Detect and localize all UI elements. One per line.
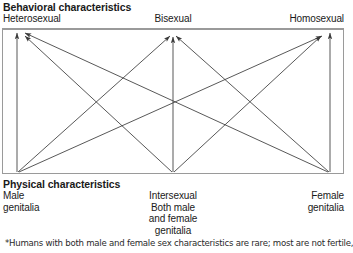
label-heterosexual: Heterosexual bbox=[3, 13, 61, 24]
column-male-genitalia: Male genitalia bbox=[3, 190, 39, 213]
column-intersexual: Intersexual Both male and female genital… bbox=[149, 190, 197, 236]
behavioral-characteristics-heading: Behavioral characteristics bbox=[3, 1, 131, 13]
footnote-text: *Humans with both male and female sex ch… bbox=[5, 238, 353, 248]
column-intersexual-line2: Both male bbox=[149, 202, 197, 214]
diagram-frame bbox=[2, 28, 344, 174]
column-male-line1: Male bbox=[3, 190, 39, 202]
column-intersexual-line1: Intersexual bbox=[149, 190, 197, 202]
label-homosexual: Homosexual bbox=[289, 13, 344, 24]
label-bisexual: Bisexual bbox=[155, 13, 192, 24]
column-female-line2: genitalia bbox=[308, 202, 344, 214]
column-intersexual-line3: and female bbox=[149, 213, 197, 225]
column-intersexual-line4: genitalia bbox=[149, 225, 197, 237]
column-female-genitalia: Female genitalia bbox=[308, 190, 344, 213]
physical-characteristics-heading: Physical characteristics bbox=[3, 178, 120, 190]
column-male-line2: genitalia bbox=[3, 202, 39, 214]
column-female-line1: Female bbox=[308, 190, 344, 202]
